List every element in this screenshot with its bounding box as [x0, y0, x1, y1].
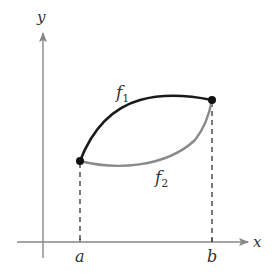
point-a-label: a — [75, 247, 85, 266]
curve-f1 — [80, 96, 212, 161]
point-b-dot — [208, 96, 216, 104]
y-axis-label: y — [36, 8, 46, 26]
x-axis-label: x — [253, 233, 262, 251]
curve-f2 — [80, 100, 212, 166]
point-a-dot — [76, 157, 84, 165]
point-b-label: b — [207, 247, 217, 266]
curve-f1-label: f1 — [114, 82, 129, 105]
curve-f2-label: f2 — [153, 167, 168, 190]
area-between-curves-diagram: y x a b f1 f2 — [0, 0, 276, 276]
diagram-svg: y x a b f1 f2 — [0, 0, 276, 276]
